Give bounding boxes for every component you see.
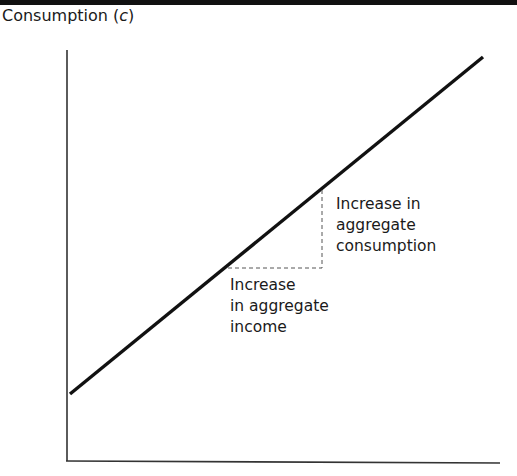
x-axis	[66, 461, 500, 463]
consumption-increase-label: Increase in aggregate consumption	[336, 194, 436, 257]
income-increase-label: Increase in aggregate income	[230, 275, 329, 338]
consumption-diagram	[0, 0, 517, 476]
